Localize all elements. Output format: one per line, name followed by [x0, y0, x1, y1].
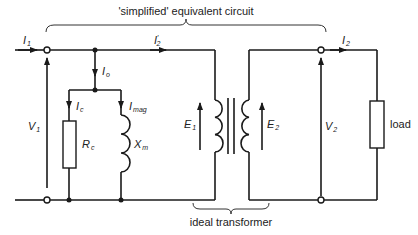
label-imag: Imag [129, 100, 147, 114]
top-brace [46, 19, 326, 32]
terminal-bottom-right [318, 197, 324, 203]
label-io: Io [102, 65, 110, 78]
label-i2prime: I′2 [154, 34, 160, 47]
xm-inductor [121, 115, 130, 172]
circuit-title: 'simplified' equivalent circuit [118, 5, 253, 17]
label-ic: Ic [76, 100, 84, 113]
label-xm: Xm [133, 138, 148, 151]
rc-resistor [63, 121, 76, 168]
junction-bottom-xm [119, 198, 124, 203]
label-e2: E2 [267, 118, 279, 131]
terminal-bottom-left [44, 197, 50, 203]
bottom-brace [193, 203, 269, 214]
load-label: load [390, 118, 411, 130]
label-e1: E1 [184, 118, 196, 131]
label-v1: V1 [28, 120, 40, 133]
transformer-equivalent-circuit: 'simplified' equivalent circuit [0, 0, 418, 235]
label-i2: I2 [342, 34, 350, 47]
label-rc: Rc [82, 138, 95, 151]
terminal-top-left [44, 47, 50, 53]
secondary-winding [241, 100, 249, 152]
primary-winding [215, 100, 223, 152]
load-resistor [370, 101, 384, 148]
ideal-transformer-label: ideal transformer [190, 216, 273, 228]
terminal-top-right [318, 47, 324, 53]
label-i1: I1 [23, 34, 31, 47]
label-v2: V2 [325, 120, 337, 133]
junction-bottom-rc [67, 198, 72, 203]
